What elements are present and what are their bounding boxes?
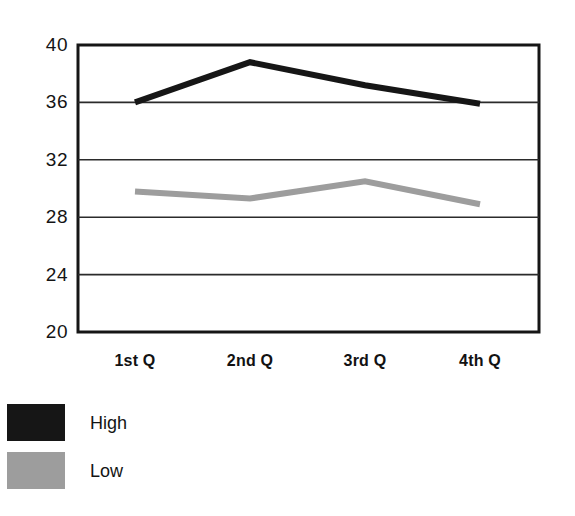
legend-swatch-low [7, 452, 65, 489]
x-axis-tick-label: 2nd Q [205, 352, 295, 370]
y-axis-tick-label: 28 [22, 207, 68, 226]
x-axis-tick-label: 3rd Q [320, 352, 410, 370]
chart-legend: High Low [7, 404, 307, 500]
legend-label-low: Low [90, 461, 123, 481]
y-axis-tick-label: 40 [22, 35, 68, 54]
y-axis-tick-label: 36 [22, 92, 68, 111]
x-axis-tick-label: 4th Q [435, 352, 525, 370]
legend-swatch-high [7, 404, 65, 441]
legend-label-high: High [90, 413, 127, 433]
y-axis-tick-label: 20 [22, 322, 68, 341]
legend-item-high: High [7, 404, 307, 452]
y-axis-tick-label: 32 [22, 150, 68, 169]
x-axis-tick-label: 1st Q [90, 352, 180, 370]
line-chart: 403632282420 1st Q2nd Q3rd Q4th Q High L… [0, 0, 575, 516]
y-axis-tick-label: 24 [22, 265, 68, 284]
legend-item-low: Low [7, 452, 307, 500]
